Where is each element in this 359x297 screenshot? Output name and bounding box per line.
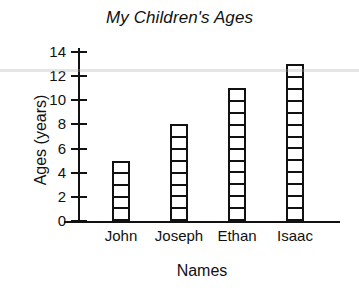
bar-unit-segment [288,159,302,171]
bar-unit-segment [288,100,302,112]
x-axis-tick-label: Joseph [150,228,208,244]
bar-unit-segment [288,171,302,183]
bar-unit-segment [230,90,244,100]
bar [228,88,246,221]
y-axis-tick-label: 8 [26,116,66,131]
y-axis-tick-label: 2 [26,189,66,204]
bar-unit-segment [172,184,186,196]
bar-unit-segment [230,100,244,112]
bar [286,64,304,221]
y-axis-tick-label: 0 [26,213,66,228]
bar-unit-segment [288,112,302,124]
bar-unit-segment [230,136,244,148]
y-axis-tick [71,196,87,198]
y-axis-tick [71,148,87,150]
y-axis-tick [71,123,87,125]
bar-unit-segment [230,195,244,207]
bar-unit-segment [114,163,128,173]
y-axis-tick-label: 12 [26,68,66,83]
bar-unit-segment [172,160,186,172]
bar-unit-segment [288,183,302,195]
bar-unit-segment [288,207,302,219]
y-axis-tick-label: 14 [26,44,66,59]
bar-unit-segment [172,172,186,184]
y-axis-tick-label: 10 [26,92,66,107]
x-axis-line [64,221,340,223]
y-axis-tick-label: 6 [26,141,66,156]
bar-unit-segment [114,196,128,208]
bar-unit-segment [230,124,244,136]
y-axis-tick [71,172,87,174]
x-axis-tick-label: Isaac [266,228,324,244]
x-axis-tick-label: John [92,228,150,244]
bar-unit-segment [288,66,302,76]
chart-title: My Children's Ages [0,8,359,28]
bar-unit-segment [172,136,186,148]
bar-unit-segment [288,124,302,136]
bar-unit-segment [172,148,186,160]
bar-unit-segment [288,88,302,100]
bar-unit-segment [114,207,128,219]
bar-unit-segment [230,148,244,160]
bar-unit-segment [288,195,302,207]
bar-chart-figure: My Children's Ages Ages (years) Names 02… [0,0,359,297]
bar-unit-segment [172,126,186,136]
bar [170,124,188,221]
bar [112,161,130,221]
bar-unit-segment [230,183,244,195]
bar-unit-segment [230,207,244,219]
bar-unit-segment [114,172,128,184]
y-axis-tick [71,99,87,101]
y-axis-tick [71,75,87,77]
bar-unit-segment [230,160,244,172]
bar-unit-segment [288,136,302,148]
y-axis-tick [71,220,87,222]
x-axis-title: Names [78,262,326,280]
bar-unit-segment [230,112,244,124]
x-axis-tick-label: Ethan [208,228,266,244]
bar-unit-segment [230,171,244,183]
bar-unit-segment [172,195,186,207]
bar-unit-segment [288,147,302,159]
bar-unit-segment [288,76,302,88]
y-axis-tick [71,51,87,53]
bar-unit-segment [114,184,128,196]
y-axis-tick-label: 4 [26,165,66,180]
bar-unit-segment [172,207,186,219]
